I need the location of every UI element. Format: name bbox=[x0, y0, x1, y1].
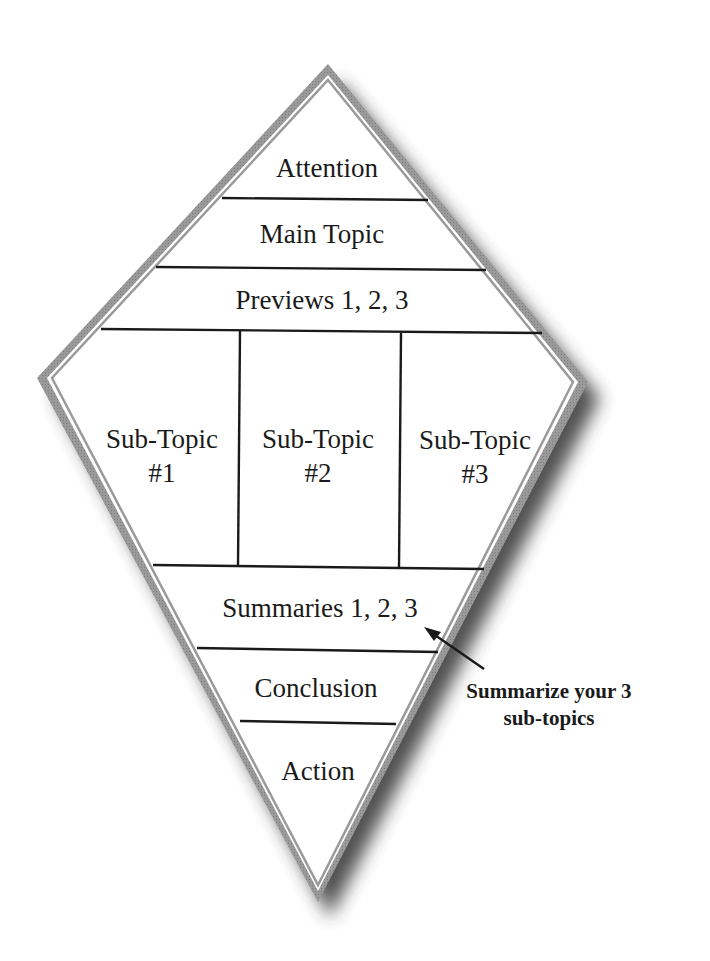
subtopic-1-title: Sub-Topic bbox=[106, 424, 218, 454]
section-main-topic: Main Topic bbox=[260, 219, 384, 249]
kite-diagram: Attention Main Topic Previews 1, 2, 3 Su… bbox=[0, 0, 710, 961]
subtopic-2-title: Sub-Topic bbox=[262, 424, 374, 454]
section-conclusion: Conclusion bbox=[254, 673, 378, 703]
subtopic-2-number: #2 bbox=[305, 458, 332, 488]
section-previews: Previews 1, 2, 3 bbox=[235, 285, 408, 315]
section-action: Action bbox=[281, 756, 355, 786]
section-attention: Attention bbox=[276, 153, 378, 183]
annotation-line-2: sub-topics bbox=[503, 706, 594, 730]
annotation-line-1: Summarize your 3 bbox=[466, 679, 631, 703]
subtopic-3-title: Sub-Topic bbox=[419, 425, 531, 455]
subtopic-1-number: #1 bbox=[149, 458, 176, 488]
subtopic-3-number: #3 bbox=[462, 459, 489, 489]
section-summaries: Summaries 1, 2, 3 bbox=[222, 593, 418, 623]
